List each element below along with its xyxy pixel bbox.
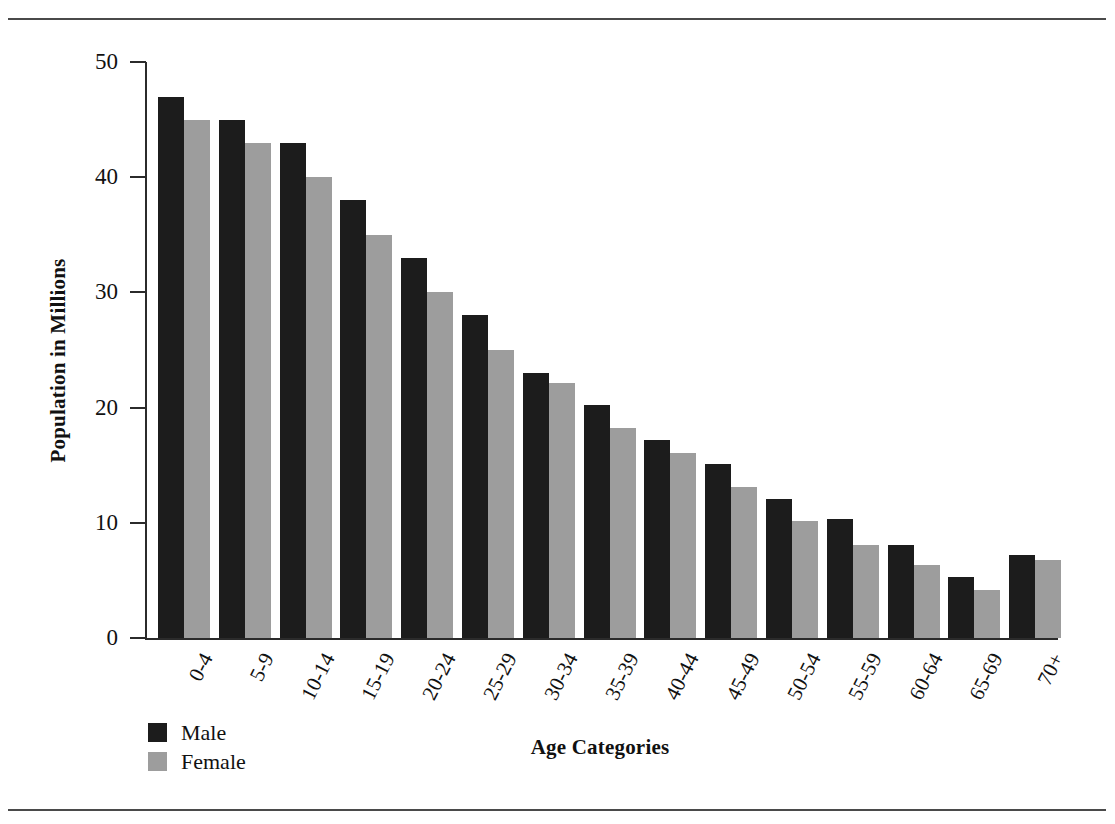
bar-male-35-39 [584, 405, 610, 638]
bar-female-5-9 [245, 143, 271, 638]
bar-female-10-14 [306, 177, 332, 638]
y-axis-tick-label: 10 [38, 511, 118, 534]
x-axis-tick-label: 50-54 [752, 650, 825, 766]
bar-male-10-14 [280, 143, 306, 638]
bar-male-60-64 [888, 545, 914, 638]
bottom-horizontal-rule [8, 809, 1106, 811]
bar-female-55-59 [853, 545, 879, 638]
bar-male-40-44 [644, 440, 670, 638]
bar-female-15-19 [366, 235, 392, 638]
top-horizontal-rule [8, 18, 1106, 20]
y-axis-tick-label: 20 [38, 396, 118, 419]
bar-male-20-24 [401, 258, 427, 638]
y-axis-tick-label: 0 [38, 626, 118, 649]
legend-label-female: Female [181, 751, 246, 773]
legend-item-female: Female [148, 747, 246, 776]
y-axis-tick-label: 40 [38, 165, 118, 188]
y-axis-tick [130, 637, 146, 639]
y-axis-tick-label: 30 [38, 280, 118, 303]
bar-male-25-29 [462, 315, 488, 638]
bar-female-0-4 [184, 120, 210, 638]
bars-layer [146, 62, 1058, 638]
bar-male-0-4 [158, 97, 184, 638]
x-axis-tick-label: 65-69 [934, 650, 1007, 766]
x-axis-tick-label: 60-64 [873, 650, 946, 766]
bar-male-65-69 [948, 577, 974, 638]
x-axis-tick-label: 15-19 [326, 650, 399, 766]
bar-male-30-34 [523, 373, 549, 638]
x-axis-tick-label: 55-59 [812, 650, 885, 766]
bar-male-5-9 [219, 120, 245, 638]
plot-area [146, 62, 1058, 638]
y-axis-tick [130, 176, 146, 178]
bar-female-60-64 [914, 565, 940, 638]
bar-female-65-69 [974, 590, 1000, 638]
bar-male-55-59 [827, 519, 853, 638]
legend-label-male: Male [181, 722, 226, 744]
bar-female-25-29 [488, 350, 514, 638]
legend-swatch-female-icon [148, 752, 167, 771]
population-bar-chart-figure: Population in Millions Age Categories 01… [0, 0, 1115, 824]
bar-female-30-34 [549, 383, 575, 638]
legend-swatch-male-icon [148, 723, 167, 742]
bar-female-50-54 [792, 521, 818, 639]
bar-female-45-49 [731, 487, 757, 638]
y-axis-tick [130, 407, 146, 409]
bar-male-70+ [1009, 555, 1035, 638]
x-axis-tick-label: 10-14 [265, 650, 338, 766]
y-axis-tick [130, 61, 146, 63]
x-axis-line [145, 638, 1058, 640]
y-axis-tick [130, 291, 146, 293]
y-axis-tick-label: 50 [38, 50, 118, 73]
x-axis-tick-label: 70+ [995, 650, 1068, 766]
y-axis-tick [130, 522, 146, 524]
bar-female-20-24 [427, 292, 453, 638]
chart-legend: Male Female [148, 718, 246, 776]
bar-female-40-44 [670, 453, 696, 638]
bar-female-35-39 [610, 428, 636, 638]
legend-item-male: Male [148, 718, 246, 747]
bar-male-15-19 [340, 200, 366, 638]
bar-male-45-49 [705, 464, 731, 638]
bar-male-50-54 [766, 499, 792, 638]
bar-female-70+ [1035, 560, 1061, 638]
y-axis-title: Population in Millions [46, 211, 71, 511]
